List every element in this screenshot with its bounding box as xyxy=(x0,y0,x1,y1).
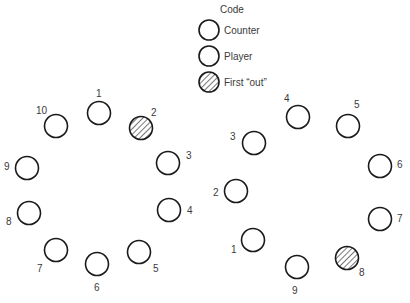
player-circle-icon xyxy=(88,102,111,125)
player-number: 7 xyxy=(37,264,43,274)
player-number: 1 xyxy=(231,245,237,255)
player-circle-icon xyxy=(16,157,39,180)
player-number: 3 xyxy=(186,151,192,161)
first-out-circle-icon xyxy=(336,247,359,270)
player-number: 9 xyxy=(292,286,298,296)
player-number: 2 xyxy=(151,108,157,118)
player-number: 6 xyxy=(397,160,403,170)
player-number: 5 xyxy=(354,100,360,110)
legend-counter-icon xyxy=(199,20,219,40)
player-number: 2 xyxy=(213,188,219,198)
player-number: 7 xyxy=(397,214,403,224)
legend-first-out-icon xyxy=(199,72,219,92)
player-number: 4 xyxy=(284,94,290,104)
left-ring xyxy=(16,102,181,276)
player-number: 3 xyxy=(230,132,236,142)
player-circle-icon xyxy=(287,106,310,129)
player-circle-icon xyxy=(45,115,68,138)
player-number: 5 xyxy=(153,264,159,274)
player-circle-icon xyxy=(369,155,392,178)
legend-title: Code xyxy=(220,4,244,15)
player-number: 6 xyxy=(94,283,100,293)
player-circle-icon xyxy=(157,152,180,175)
legend-player-label: Player xyxy=(224,51,252,62)
player-number: 1 xyxy=(96,89,102,99)
right-ring xyxy=(225,106,392,279)
player-circle-icon xyxy=(286,256,309,279)
player-circle-icon xyxy=(18,202,41,225)
player-number: 9 xyxy=(4,162,10,172)
player-number: 10 xyxy=(36,106,47,116)
diagram-canvas xyxy=(0,0,410,303)
legend-first-out-label: First “out” xyxy=(224,77,267,88)
player-circle-icon xyxy=(158,199,181,222)
legend-counter-label: Counter xyxy=(224,25,260,36)
player-circle-icon xyxy=(225,180,248,203)
player-number: 4 xyxy=(187,206,193,216)
player-circle-icon xyxy=(128,241,151,264)
player-number: 8 xyxy=(6,217,12,227)
player-circle-icon xyxy=(337,115,360,138)
legend-player-icon xyxy=(199,46,219,66)
player-circle-icon xyxy=(243,132,266,155)
player-circle-icon xyxy=(242,229,265,252)
player-circle-icon xyxy=(86,253,109,276)
player-circle-icon xyxy=(45,239,68,262)
player-circle-icon xyxy=(369,208,392,231)
first-out-circle-icon xyxy=(130,117,153,140)
player-number: 8 xyxy=(359,268,365,278)
